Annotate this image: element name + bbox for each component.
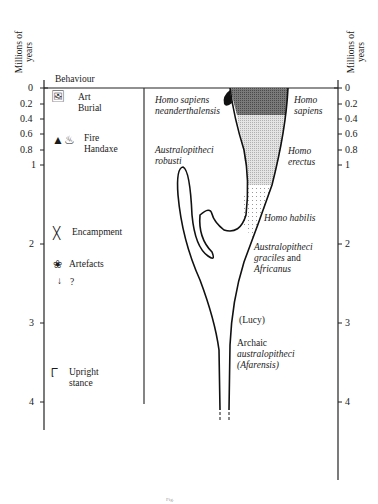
label-lucy: (Lucy) — [239, 315, 265, 326]
left-tick-1: 1 — [31, 160, 36, 170]
label-neanderthalensis: Homo sapiensneanderthalensis — [155, 95, 220, 117]
behaviour-art: ArtBurial — [78, 92, 102, 114]
left-axis-title: Millions ofyears — [14, 22, 34, 82]
left-tick-0.4: 0.4 — [20, 114, 33, 124]
right-tick-1: 1 — [345, 160, 350, 170]
behaviour-fire: FireHandaxe — [84, 133, 118, 155]
artefacts-icon: ❀ — [53, 259, 62, 270]
right-tick-0.8: 0.8 — [345, 145, 358, 155]
left-tick-2: 2 — [29, 239, 34, 249]
right-tick-0.6: 0.6 — [345, 129, 358, 139]
behaviour-artefacts: Artefacts — [69, 259, 104, 270]
right-axis-title: Millions ofyears — [346, 22, 366, 82]
label-afarensis: Archaic australopitheci (Afarensis) — [237, 338, 295, 371]
left-tick-0.8: 0.8 — [20, 145, 33, 155]
art-burial-icon: 🖼 — [51, 91, 65, 102]
label-homo-habilis: Homo habilis — [264, 213, 315, 224]
right-tick-3: 3 — [345, 318, 350, 328]
arrow-down-icon: ↓ — [57, 275, 62, 286]
fire-handaxe-icon: ▲♨ — [52, 135, 75, 146]
left-tick-4: 4 — [29, 397, 34, 407]
right-tick-0: 0 — [345, 83, 350, 93]
right-tick-4: 4 — [345, 397, 350, 407]
behaviour-upright: Uprightstance — [69, 367, 99, 389]
right-tick-2: 2 — [345, 239, 350, 249]
right-tick-0.2: 0.2 — [345, 99, 358, 109]
label-homo-erectus: Homoerectus — [288, 146, 315, 168]
left-tick-0.6: 0.6 — [20, 129, 33, 139]
label-graciles: Australopitheci graciles and Africanus — [254, 242, 313, 275]
behaviour-header: Behaviour — [55, 74, 95, 85]
behaviour-encampment: Encampment — [72, 227, 122, 238]
label-homo-sapiens: Homosapiens — [294, 95, 323, 117]
encampment-icon: ╳ — [53, 228, 60, 239]
label-robusti: Australopithecirobusti — [155, 145, 214, 167]
footprint-icon: ୮ — [51, 367, 58, 378]
left-tick-3: 3 — [29, 318, 34, 328]
left-tick-0.2: 0.2 — [20, 99, 33, 109]
right-axis — [334, 80, 342, 480]
left-tick-0: 0 — [28, 83, 33, 93]
figure-caption: Fig. — [166, 497, 174, 502]
behaviour-unknown: ? — [70, 277, 74, 288]
homo-sapiens-fill — [230, 88, 288, 115]
left-axis — [40, 80, 48, 430]
right-tick-0.4: 0.4 — [345, 114, 358, 124]
